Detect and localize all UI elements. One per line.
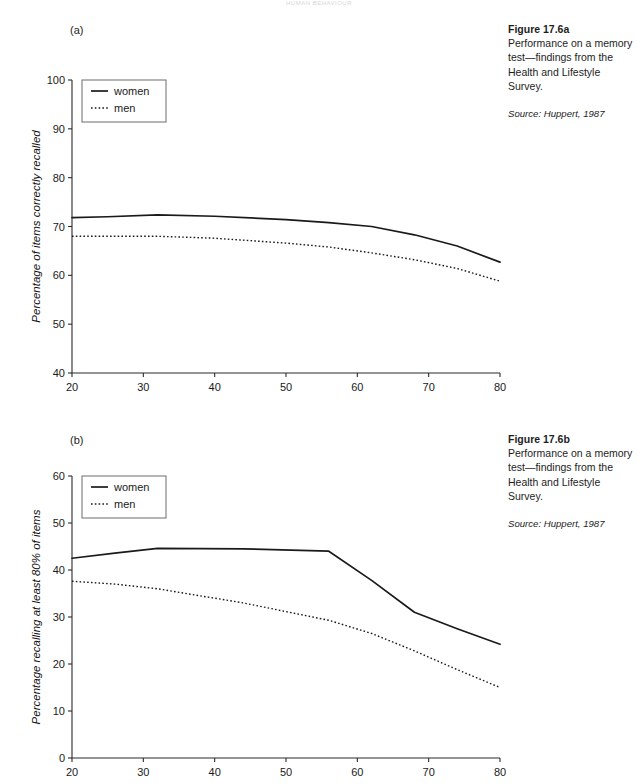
figure-a-caption-body: Performance on a memory test—findings fr… <box>508 36 636 93</box>
y-tick-label: 50 <box>53 318 65 330</box>
chart-a: 40506070809010020304050607080Percentage … <box>0 18 510 408</box>
legend-label-men: men <box>114 102 135 114</box>
x-tick-label: 70 <box>423 381 435 393</box>
figure-a-caption-title: Figure 17.6a <box>508 22 636 36</box>
y-tick-label: 80 <box>53 172 65 184</box>
y-tick-label: 60 <box>53 269 65 281</box>
chart-b-svg: 010203040506020304050607080Percentage re… <box>0 420 510 784</box>
series-men <box>72 236 500 281</box>
y-tick-label: 50 <box>53 517 65 529</box>
series-women <box>72 215 500 262</box>
y-tick-label: 90 <box>53 123 65 135</box>
x-tick-label: 50 <box>280 381 292 393</box>
x-tick-label: 70 <box>423 766 435 778</box>
y-tick-label: 20 <box>53 658 65 670</box>
y-tick-label: 100 <box>47 74 65 86</box>
y-axis-title: Percentage of items correctly recalled <box>30 130 42 323</box>
figure-a-caption: Figure 17.6a Performance on a memory tes… <box>508 22 636 121</box>
x-tick-label: 80 <box>494 381 506 393</box>
x-tick-label: 60 <box>351 381 363 393</box>
y-tick-label: 30 <box>53 611 65 623</box>
figure-b-caption-title: Figure 17.6b <box>508 432 636 446</box>
legend-label-women: women <box>113 481 149 493</box>
x-tick-label: 30 <box>137 766 149 778</box>
legend-label-women: women <box>113 85 149 97</box>
x-tick-label: 80 <box>494 766 506 778</box>
figure-b-caption-source: Source: Huppert, 1987 <box>508 517 636 531</box>
running-header: HUMAN BEHAVIOUR <box>0 0 638 10</box>
y-tick-label: 40 <box>53 564 65 576</box>
x-tick-label: 30 <box>137 381 149 393</box>
y-tick-label: 60 <box>53 470 65 482</box>
chart-b: 010203040506020304050607080Percentage re… <box>0 420 510 784</box>
figure-b-caption-body: Performance on a memory test—findings fr… <box>508 446 636 503</box>
chart-axes <box>72 80 500 373</box>
y-tick-label: 40 <box>53 367 65 379</box>
series-women <box>72 548 500 644</box>
legend-label-men: men <box>114 498 135 510</box>
x-axis-title: Age (group midpoint) <box>231 407 340 408</box>
y-tick-label: 70 <box>53 221 65 233</box>
y-tick-label: 0 <box>59 752 65 764</box>
figure-b-caption: Figure 17.6b Performance on a memory tes… <box>508 432 636 531</box>
x-tick-label: 50 <box>280 766 292 778</box>
x-tick-label: 40 <box>209 766 221 778</box>
x-tick-label: 20 <box>66 381 78 393</box>
x-tick-label: 60 <box>351 766 363 778</box>
x-tick-label: 40 <box>209 381 221 393</box>
figure-b-block: (b) Figure 17.6b Performance on a memory… <box>0 420 638 784</box>
figure-a-caption-source: Source: Huppert, 1987 <box>508 107 636 121</box>
y-tick-label: 10 <box>53 705 65 717</box>
x-tick-label: 20 <box>66 766 78 778</box>
series-men <box>72 581 500 687</box>
chart-a-svg: 40506070809010020304050607080Percentage … <box>0 18 510 408</box>
y-axis-title: Percentage recalling at least 80% of ite… <box>30 509 42 724</box>
figure-a-block: (a) Figure 17.6a Performance on a memory… <box>0 18 638 408</box>
